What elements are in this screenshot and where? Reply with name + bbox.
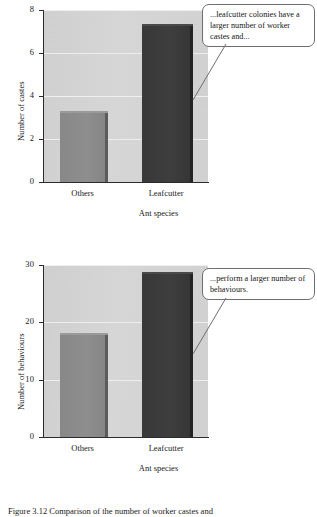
figure-caption: Figure 3.12 Comparison of the number of … (0, 506, 317, 517)
y-axis-tick (39, 322, 43, 323)
y-axis-tick-label: 0 (8, 432, 34, 441)
y-axis-tick-label: 20 (8, 317, 34, 326)
bar-others (60, 335, 105, 437)
y-axis-tick (39, 265, 43, 266)
bar-face (142, 274, 190, 437)
y-axis-line-behaviours (43, 265, 44, 438)
callout-leader-line-behaviours (190, 298, 230, 358)
bar-top-shading (142, 272, 193, 274)
y-axis-tick (39, 437, 43, 438)
y-axis-tick-label: 30 (8, 260, 34, 269)
x-axis-title-behaviours: Ant species (0, 463, 317, 473)
bar-side-shading (105, 335, 108, 437)
y-axis-title-behaviours: Number of behaviours (16, 334, 26, 410)
bar-face (60, 335, 105, 437)
bar-leafcutter (142, 274, 190, 437)
y-axis-tick (39, 380, 43, 381)
gridline (44, 265, 208, 266)
callout-behaviours: ...perform a larger number of behaviours… (202, 268, 315, 300)
x-axis-line-behaviours (43, 437, 209, 438)
x-axis-tick-label: Others (43, 443, 123, 453)
x-axis-tick-label: Leafcutter (126, 443, 206, 453)
bar-top-shading (60, 333, 108, 335)
